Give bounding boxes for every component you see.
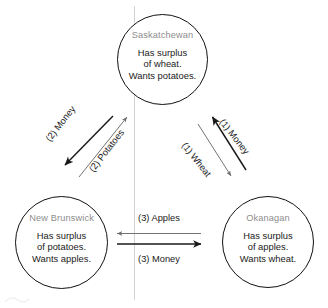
node-okanagan-line-3: Wants wheat. bbox=[240, 253, 296, 264]
node-new-brunswick-title: New Brunswick bbox=[29, 213, 94, 224]
node-new-brunswick-line-2: of potatoes. bbox=[37, 241, 86, 252]
node-new-brunswick-line-3: Wants apples. bbox=[32, 253, 91, 264]
node-okanagan-line-1: Has surplus bbox=[243, 230, 293, 241]
node-new-brunswick[interactable]: New Brunswick Has surplus of potatoes. W… bbox=[15, 196, 108, 289]
edge-label-3-money: (3) Money bbox=[138, 254, 180, 265]
node-okanagan[interactable]: Okanagan Has surplus of apples. Wants wh… bbox=[222, 196, 314, 288]
node-okanagan-title: Okanagan bbox=[246, 213, 290, 224]
node-saskatchewan-line-2: of wheat. bbox=[143, 58, 181, 69]
scan-artifact-mark bbox=[4, 296, 30, 304]
node-saskatchewan-title: Saskatchewan bbox=[132, 30, 194, 41]
node-saskatchewan[interactable]: Saskatchewan Has surplus of wheat. Wants… bbox=[117, 14, 208, 105]
node-new-brunswick-line-1: Has surplus bbox=[37, 230, 87, 241]
node-saskatchewan-line-3: Wants potatoes. bbox=[129, 70, 196, 81]
node-okanagan-line-2: of apples. bbox=[248, 241, 289, 252]
node-saskatchewan-line-1: Has surplus bbox=[138, 47, 188, 58]
edge-label-3-apples: (3) Apples bbox=[138, 213, 180, 224]
